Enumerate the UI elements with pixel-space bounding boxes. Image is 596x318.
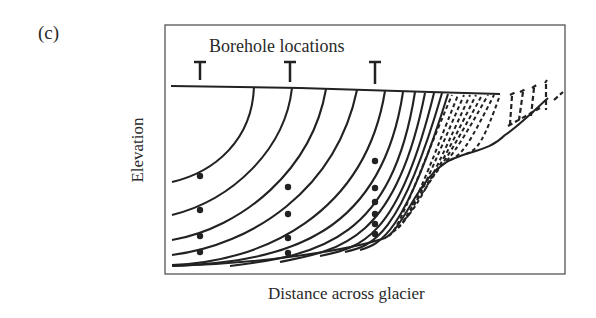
- borehole-markers: [194, 62, 381, 84]
- dot-bh3-1: [372, 158, 378, 164]
- dot-bh3-6: [372, 231, 378, 237]
- dot-bh2-3: [285, 235, 291, 241]
- plot-frame: [165, 25, 565, 274]
- dot-bh3-5: [372, 221, 378, 227]
- dot-bh3-4: [372, 211, 378, 217]
- dot-bh2-4: [285, 250, 291, 256]
- dot-bh3-3: [372, 199, 378, 205]
- dot-bh1-1: [197, 173, 203, 179]
- dot-bh1-2: [197, 207, 203, 213]
- borehole-marker-3: [369, 62, 381, 84]
- dot-bh1-4: [197, 249, 203, 255]
- dot-bh2-2: [285, 211, 291, 217]
- solid-contours: [172, 87, 448, 266]
- dot-bh2-1: [285, 184, 291, 190]
- dot-bh1-3: [197, 233, 203, 239]
- borehole-marker-1: [194, 62, 206, 80]
- margin-dashed-segments: [508, 80, 563, 126]
- glacier-diagram: [0, 0, 596, 318]
- borehole-marker-2: [284, 62, 296, 82]
- dot-bh3-2: [372, 185, 378, 191]
- glacier-surface: [171, 86, 500, 94]
